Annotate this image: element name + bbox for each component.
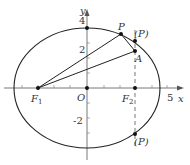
y-axis: [85, 9, 91, 160]
y-tick-4: 4: [79, 15, 85, 26]
point-p-upper-alt: [133, 39, 137, 43]
point-origin: [85, 86, 89, 90]
f1-label: F1: [30, 93, 42, 106]
segment-p-a: [121, 34, 135, 51]
x-axis-arrow-icon: [177, 86, 184, 91]
f2-label: F2: [121, 93, 133, 106]
y-tick-2: 2: [79, 44, 85, 55]
x-tick-5: 5: [167, 92, 173, 103]
point-f1: [36, 86, 40, 90]
ellipse-diagram: y x 4 2 -2 5 O F1 F2 P (P) A (P): [0, 0, 190, 165]
p-lower-alt-label: (P): [134, 136, 149, 147]
point-top-vertex: [85, 26, 89, 30]
x-axis: [4, 85, 184, 91]
a-label: A: [134, 53, 142, 64]
p-upper-alt-label: (P): [134, 28, 149, 39]
y-tick-neg2: -2: [73, 115, 83, 126]
point-f2: [133, 86, 137, 90]
x-axis-label: x: [178, 93, 184, 104]
origin-label: O: [77, 92, 85, 103]
point-p: [119, 32, 123, 36]
p-label: P: [117, 21, 125, 32]
